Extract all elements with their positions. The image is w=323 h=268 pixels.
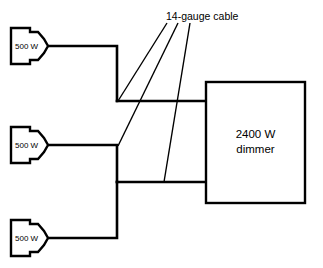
fixture-bottom: 500 W (11, 220, 48, 256)
fixture-bottom-label: 500 W (15, 234, 39, 243)
wire-bottom-fixture (48, 182, 117, 238)
fixture-top-label: 500 W (15, 42, 39, 51)
cable-annotation-label: 14-gauge cable (166, 10, 239, 22)
diagram-canvas: 500 W 500 W 500 W 2400 W dimmer 14-gauge… (0, 0, 323, 268)
dimmer-box: 2400 W dimmer (206, 82, 305, 203)
dimmer-label-line2: dimmer (236, 143, 275, 155)
leader-line-2 (118, 23, 178, 146)
fixture-top: 500 W (11, 28, 48, 64)
leader-line-3 (164, 23, 190, 182)
wire-middle-fixture (48, 145, 117, 182)
annotation-leader-lines (118, 23, 190, 182)
wire-top-fixture (48, 46, 117, 101)
wiring-diagram: 500 W 500 W 500 W 2400 W dimmer 14-gauge… (0, 0, 323, 268)
fixture-middle: 500 W (11, 127, 48, 163)
fixture-middle-label: 500 W (15, 141, 39, 150)
cable-runs (48, 46, 206, 238)
dimmer-label-line1: 2400 W (236, 128, 276, 140)
